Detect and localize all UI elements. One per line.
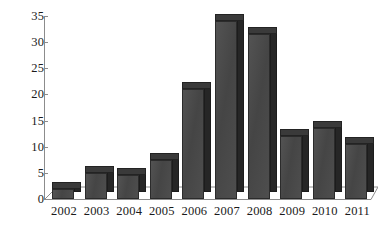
bar-front-face — [117, 175, 139, 199]
bar-top-face — [52, 182, 81, 189]
bar — [345, 137, 374, 199]
bar-side-face — [237, 14, 244, 192]
bar-top-face — [280, 129, 309, 136]
bar-top-face — [313, 121, 342, 128]
bar-top-face — [345, 137, 374, 144]
bar-side-face — [367, 137, 374, 192]
bar — [182, 82, 211, 199]
bar — [215, 14, 244, 199]
bar-front-face — [280, 136, 302, 199]
bar-top-face — [182, 82, 211, 89]
bar-top-face — [150, 153, 179, 160]
bar — [280, 129, 309, 199]
bar-top-face — [85, 166, 114, 173]
bar-chart: 05101520253035 2002200320042005200620072… — [0, 0, 387, 230]
bar-front-face — [52, 189, 74, 199]
bar — [313, 121, 342, 199]
bar-front-face — [248, 34, 270, 199]
bar — [248, 27, 277, 199]
bar-side-face — [335, 121, 342, 192]
bar-front-face — [150, 160, 172, 199]
bar — [117, 168, 146, 199]
bar-side-face — [302, 129, 309, 192]
bar-top-face — [215, 14, 244, 21]
bar-front-face — [182, 89, 204, 199]
bars-layer — [0, 0, 387, 230]
bar — [85, 166, 114, 199]
bar-side-face — [204, 82, 211, 192]
bar-front-face — [215, 21, 237, 199]
bar-front-face — [345, 144, 367, 199]
bar-front-face — [313, 128, 335, 199]
bar-side-face — [270, 27, 277, 192]
bar-top-face — [117, 168, 146, 175]
bar-top-face — [248, 27, 277, 34]
bar-front-face — [85, 173, 107, 199]
bar — [52, 182, 81, 199]
x-axis-tick-label: 2011 — [338, 204, 376, 218]
bar — [150, 153, 179, 199]
